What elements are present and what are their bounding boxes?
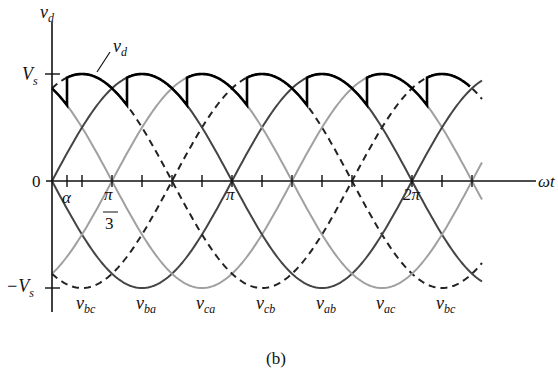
vd-annotation-label: vd bbox=[113, 36, 128, 59]
vd-annotation-leader bbox=[97, 52, 110, 72]
vd-envelope-path bbox=[52, 74, 470, 105]
figure-caption: (b) bbox=[266, 349, 286, 368]
y-axis-label: vd bbox=[40, 2, 55, 25]
trough-label: vac bbox=[376, 293, 396, 316]
two-pi-label: 2π bbox=[403, 185, 421, 204]
trough-label: vab bbox=[316, 293, 336, 316]
pi-over-3-numerator: π bbox=[104, 185, 113, 204]
alpha-label: α bbox=[62, 188, 72, 207]
vs-label: Vs bbox=[22, 64, 38, 88]
vd-envelope bbox=[52, 74, 470, 105]
trough-label: vba bbox=[136, 293, 156, 316]
x-axis-label: ωt bbox=[538, 172, 556, 191]
pi-over-3-denominator: 3 bbox=[105, 214, 114, 233]
pi-label: π bbox=[226, 185, 235, 204]
neg-vs-label: −Vs bbox=[6, 276, 34, 300]
trough-labels: vbcvbavcavcbvabvacvbc bbox=[76, 293, 456, 316]
trough-label: vcb bbox=[256, 293, 275, 316]
rectifier-waveform-diagram: vd ωt 0 Vs −Vs α π 3 π 2π vd vbcvbavcavc… bbox=[0, 0, 558, 374]
trough-label: vbc bbox=[76, 293, 96, 316]
origin-label: 0 bbox=[32, 172, 41, 191]
trough-label: vbc bbox=[436, 293, 456, 316]
trough-label: vca bbox=[196, 293, 215, 316]
